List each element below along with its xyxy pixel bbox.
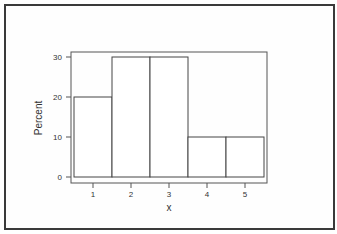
histogram-bar	[226, 137, 264, 177]
y-tick-label: 10	[53, 133, 62, 142]
x-axis: 12345	[91, 183, 248, 199]
y-axis: 0102030	[53, 53, 71, 182]
x-tick-label: 2	[129, 190, 134, 199]
x-tick-label: 4	[205, 190, 210, 199]
x-tick-label: 5	[243, 190, 248, 199]
histogram-bar	[74, 97, 112, 177]
histogram-bar	[112, 57, 150, 177]
bars	[74, 57, 264, 177]
x-axis-label: x	[167, 202, 172, 213]
x-tick-label: 1	[91, 190, 96, 199]
y-tick-label: 0	[58, 173, 63, 182]
y-axis-label: Percent	[33, 101, 44, 136]
x-tick-label: 3	[167, 190, 172, 199]
histogram-chart: 0102030 12345 Percent x	[0, 0, 337, 234]
y-tick-label: 30	[53, 53, 62, 62]
histogram-bar	[188, 137, 226, 177]
histogram-bar	[150, 57, 188, 177]
y-tick-label: 20	[53, 93, 62, 102]
